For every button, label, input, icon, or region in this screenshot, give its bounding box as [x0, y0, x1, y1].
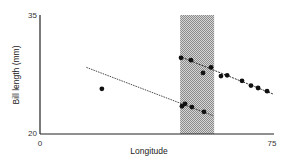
x-tick-75: 75	[268, 139, 277, 148]
data-point	[183, 101, 188, 106]
data-point	[179, 55, 184, 60]
data-point	[202, 109, 207, 114]
shaded-band	[180, 15, 214, 134]
data-point	[225, 73, 230, 78]
shaded-region	[180, 15, 214, 134]
y-tick-20: 20	[28, 129, 37, 138]
data-point	[219, 74, 224, 79]
data-point	[240, 78, 245, 83]
y-tick-35: 35	[28, 11, 37, 20]
data-point	[201, 71, 206, 76]
y-axis-title: Bill length (mm)	[11, 45, 21, 104]
data-point	[249, 83, 254, 88]
x-axis-title: Longitude	[130, 146, 168, 156]
data-point	[265, 89, 270, 94]
data-point	[189, 58, 194, 63]
data-point	[99, 86, 104, 91]
data-point	[256, 86, 261, 91]
scatter-chart: 35 20 0 75 Longitude Bill length (mm)	[0, 0, 285, 164]
data-point	[189, 105, 194, 110]
data-point	[209, 65, 214, 70]
x-tick-0: 0	[38, 139, 43, 148]
